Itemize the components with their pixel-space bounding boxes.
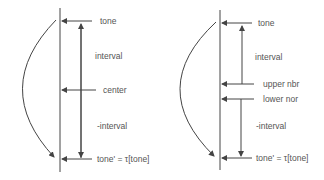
right-label-lower-nor: lower nor <box>263 94 298 104</box>
right-label-neg-interval: -interval <box>256 121 286 131</box>
right-label-interval: interval <box>255 52 283 62</box>
diagram-canvas: tone interval center -interval tone' = τ… <box>0 0 324 180</box>
left-label-neg-interval: -interval <box>97 121 127 131</box>
right-diagram: tone interval upper nbr lower nor -inter… <box>180 10 308 170</box>
left-label-tone: tone <box>100 16 117 26</box>
left-curve-arrow <box>22 20 56 157</box>
right-label-bottom: tone' = τ[tone] <box>256 153 308 163</box>
right-label-upper-nbr: upper nbr <box>263 79 300 89</box>
left-label-interval: interval <box>95 51 123 61</box>
right-curve-arrow <box>180 22 216 156</box>
left-label-center: center <box>103 85 127 95</box>
left-label-bottom: tone' = τ[tone] <box>97 154 149 164</box>
right-label-tone: tone <box>258 18 275 28</box>
left-diagram: tone interval center -interval tone' = τ… <box>22 8 149 172</box>
